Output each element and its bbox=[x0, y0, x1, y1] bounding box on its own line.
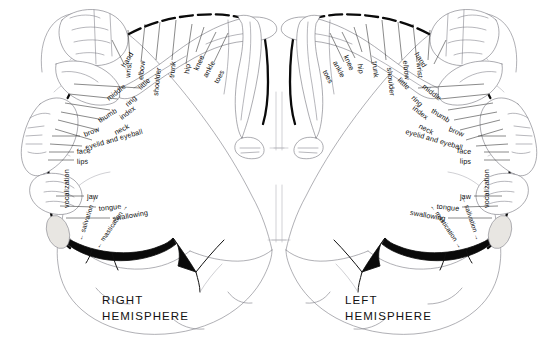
label-face-right: face bbox=[77, 146, 92, 156]
right-hemisphere-line2: HEMISPHERE bbox=[102, 310, 189, 322]
label-hip-left: hip bbox=[356, 63, 366, 74]
label-lips-right: lips bbox=[77, 157, 89, 166]
left-hemisphere-line2: HEMISPHERE bbox=[345, 310, 432, 322]
homunculus-figure: toes ankle knee hip trunk shoulder elbow… bbox=[0, 0, 558, 356]
label-trunk-left: trunk bbox=[370, 61, 381, 79]
right-hemisphere-line1: RIGHT bbox=[102, 294, 143, 306]
label-vocalization-left: vocalization bbox=[482, 169, 491, 208]
left-hemisphere-line1: LEFT bbox=[345, 294, 378, 306]
label-trunk-right: trunk bbox=[167, 61, 178, 79]
label-lips-left: lips bbox=[460, 157, 472, 166]
label-face-left: face bbox=[457, 146, 472, 156]
label-vocalization-right: vocalization bbox=[62, 169, 71, 208]
label-hip-right: hip bbox=[182, 63, 192, 74]
